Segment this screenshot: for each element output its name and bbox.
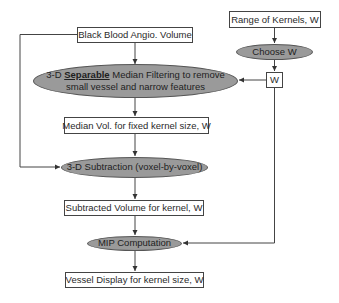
w-value-box: W (266, 72, 283, 88)
median-filter-line2: small vessel and narrow features (66, 81, 205, 93)
median-volume-box: Median Vol. for fixed kernel size, W (64, 117, 209, 134)
mip-label: MIP Computation (98, 237, 171, 249)
w-value-label: W (270, 75, 279, 85)
input-volume-label: Black Blood Angio. Volume (78, 30, 192, 40)
choose-w-label: Choose W (252, 46, 296, 58)
subtraction-label: 3-D Subtraction (voxel-by-voxel) (67, 161, 203, 173)
median-filter-ellipse: 3-D Separable Median Filtering to remove… (33, 64, 238, 98)
input-volume-box: Black Blood Angio. Volume (77, 27, 193, 43)
vessel-display-box: Vessel Display for kernel size, W (65, 272, 204, 288)
median-volume-label: Median Vol. for fixed kernel size, W (62, 121, 210, 131)
subtracted-volume-label: Subtracted Volume for kernel, W (66, 203, 203, 213)
choose-w-ellipse: Choose W (236, 44, 313, 60)
separable-emphasis: Separable (64, 69, 109, 80)
kernel-range-label: Range of Kernels, W (231, 15, 319, 25)
subtracted-volume-box: Subtracted Volume for kernel, W (64, 200, 204, 216)
kernel-range-box: Range of Kernels, W (229, 11, 321, 28)
median-filter-line1: 3-D Separable Median Filtering to remove (46, 69, 224, 81)
subtraction-ellipse: 3-D Subtraction (voxel-by-voxel) (61, 157, 208, 178)
vessel-display-label: Vessel Display for kernel size, W (66, 275, 204, 285)
mip-ellipse: MIP Computation (87, 236, 182, 251)
